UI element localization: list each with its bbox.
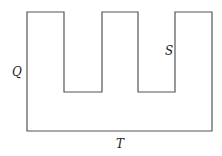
label-q: Q: [12, 65, 22, 79]
diagram-canvas: Q S T: [0, 0, 222, 156]
shape-outline: [27, 12, 212, 131]
label-s: S: [165, 44, 173, 58]
label-t: T: [116, 137, 125, 151]
